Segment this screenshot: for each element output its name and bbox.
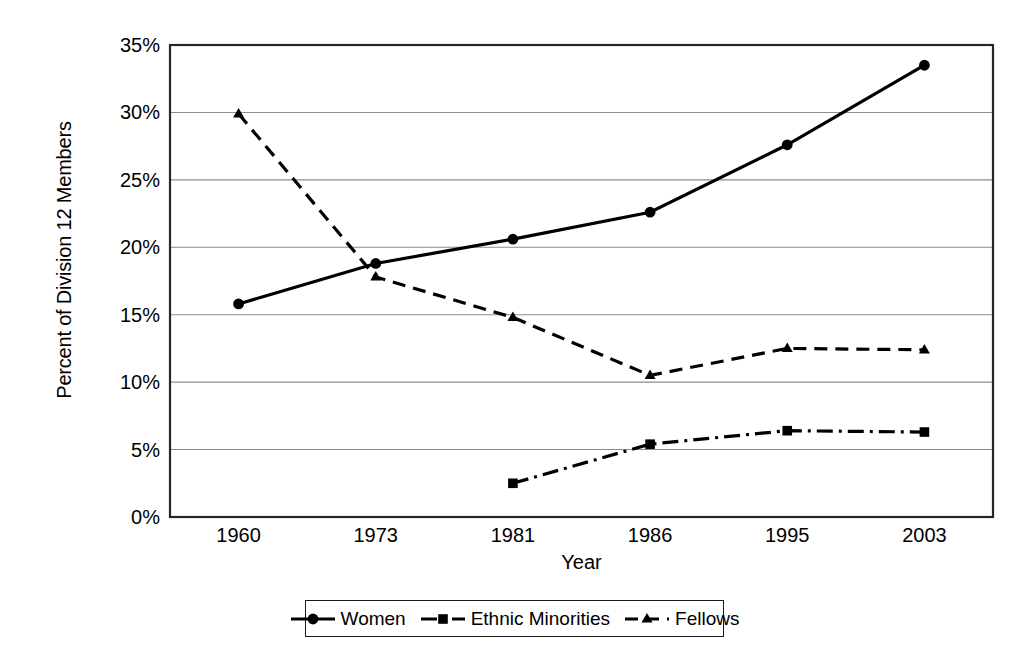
legend-label: Women: [341, 608, 406, 630]
x-tick-label: 1960: [216, 524, 261, 547]
series-women: [233, 60, 930, 309]
data-point-circle: [645, 207, 656, 218]
data-point-circle: [782, 139, 793, 150]
legend-item-fellows[interactable]: Fellows: [617, 608, 746, 630]
data-point-square: [508, 478, 518, 488]
data-point-triangle: [507, 312, 518, 322]
series-line: [239, 65, 925, 304]
data-point-square: [645, 439, 655, 449]
data-point-circle: [508, 234, 519, 245]
chart-legend: WomenEthnic MinoritiesFellows: [305, 600, 724, 637]
data-point-circle: [307, 613, 318, 624]
data-point-square: [438, 614, 448, 624]
data-point-circle: [370, 258, 381, 269]
data-point-triangle: [782, 343, 793, 353]
x-tick-label: 1995: [765, 524, 810, 547]
data-point-circle: [919, 60, 930, 71]
legend-label: Fellows: [675, 608, 739, 630]
legend-swatch-circle-icon: [290, 610, 336, 628]
x-axis-title: Year: [170, 551, 993, 574]
plot-frame: [170, 45, 993, 517]
series-fellows: [233, 108, 930, 379]
x-tick-label: 1973: [354, 524, 399, 547]
series-line: [513, 431, 925, 484]
legend-item-women[interactable]: Women: [283, 608, 413, 630]
data-point-triangle: [370, 271, 381, 281]
legend-swatch-square-icon: [420, 610, 466, 628]
x-tick-label: 2003: [902, 524, 947, 547]
series-line: [239, 114, 925, 376]
data-point-square: [920, 427, 930, 437]
x-tick-label: 1986: [628, 524, 673, 547]
legend-swatch-triangle-icon: [624, 610, 670, 628]
x-tick-label: 1981: [491, 524, 536, 547]
legend-item-ethnic-minorities[interactable]: Ethnic Minorities: [413, 608, 617, 630]
chart-figure: Percent of Division 12 Members 0%5%10%15…: [0, 0, 1021, 657]
series-ethnic-minorities: [508, 426, 929, 488]
data-point-square: [782, 426, 792, 436]
data-point-circle: [233, 299, 244, 310]
legend-label: Ethnic Minorities: [471, 608, 610, 630]
